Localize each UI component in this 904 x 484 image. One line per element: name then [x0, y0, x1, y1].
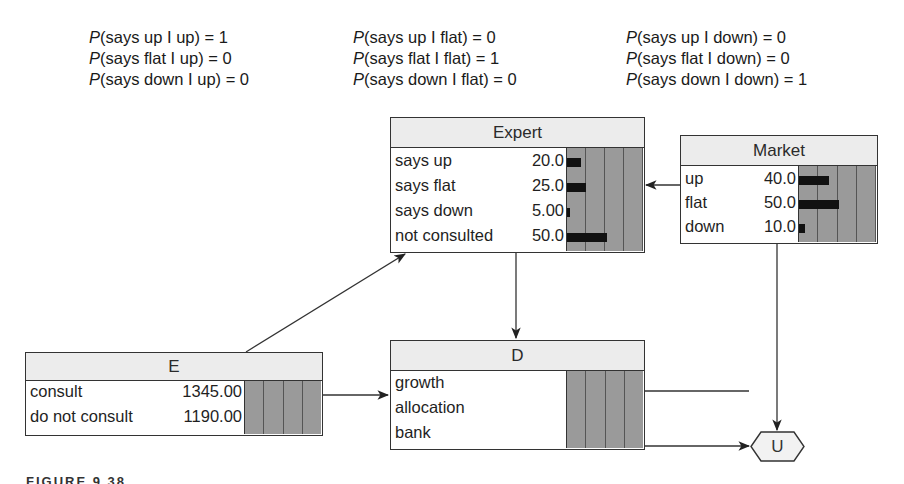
d-bars	[566, 371, 643, 448]
state-row[interactable]: do not consult1190.00	[26, 407, 244, 432]
expert-node[interactable]: Expert says up20.0 says flat25.0 says do…	[390, 117, 645, 253]
state-row[interactable]: allocation	[391, 398, 566, 423]
state-value: 25.0	[532, 176, 564, 201]
prob-expr: (says up I down) = 0	[637, 28, 786, 46]
prob-expr: (says flat I flat) = 1	[364, 49, 499, 67]
cpt-line: P(says up I down) = 0	[626, 27, 807, 48]
state-label: says down	[395, 201, 473, 226]
state-row: up40.0	[681, 169, 798, 193]
state-value: 1345.00	[182, 382, 242, 407]
prob-symbol: P	[89, 28, 100, 46]
d-node[interactable]: D growth allocation bank	[390, 340, 645, 450]
state-value: 5.00	[532, 201, 564, 226]
cpt-line: P(says flat I down) = 0	[626, 48, 807, 69]
e-node[interactable]: E consult1345.00 do not consult1190.00	[25, 352, 323, 436]
e-bars	[244, 381, 321, 434]
prob-symbol: P	[353, 28, 364, 46]
belief-bar	[567, 183, 586, 192]
market-states: up40.0 flat50.0 down10.0	[681, 166, 798, 242]
cpt-line: P(says flat I up) = 0	[89, 48, 249, 69]
state-label: do not consult	[30, 407, 133, 432]
belief-bar	[567, 233, 607, 242]
cpt-line: P(says up I flat) = 0	[353, 27, 517, 48]
state-row: down10.0	[681, 217, 798, 241]
prob-symbol: P	[353, 70, 364, 88]
state-value: 20.0	[532, 151, 564, 176]
prob-symbol: P	[626, 70, 637, 88]
state-row[interactable]: consult1345.00	[26, 382, 244, 407]
state-row: says flat25.0	[391, 176, 566, 201]
state-row[interactable]: bank	[391, 423, 566, 448]
state-label: says up	[395, 151, 452, 176]
cpt-given-down: P(says up I down) = 0 P(says flat I down…	[626, 27, 807, 90]
u-node[interactable]: U	[750, 431, 805, 462]
prob-expr: (says down I flat) = 0	[364, 70, 517, 88]
cpt-given-up: P(says up I up) = 1 P(says flat I up) = …	[89, 27, 249, 90]
prob-symbol: P	[353, 49, 364, 67]
belief-bar	[567, 208, 570, 217]
state-value: 50.0	[764, 193, 796, 217]
d-node-title: D	[391, 341, 644, 371]
state-label: bank	[395, 423, 431, 448]
state-label: down	[685, 217, 724, 241]
prob-expr: (says down I up) = 0	[100, 70, 249, 88]
state-label: growth	[395, 373, 445, 398]
state-row: says down5.00	[391, 201, 566, 226]
state-row: not consulted50.0	[391, 226, 566, 251]
state-row: flat50.0	[681, 193, 798, 217]
belief-bar	[799, 200, 839, 209]
market-node[interactable]: Market up40.0 flat50.0 down10.0	[680, 135, 878, 244]
prob-expr: (says flat I up) = 0	[100, 49, 232, 67]
state-value: 10.0	[764, 217, 796, 241]
u-node-title: U	[750, 431, 805, 462]
state-value: 1190.00	[184, 407, 242, 432]
belief-bar	[799, 176, 829, 185]
belief-bar	[799, 224, 805, 233]
state-label: up	[685, 169, 703, 193]
state-label: allocation	[395, 398, 465, 423]
belief-bar	[567, 158, 581, 167]
prob-symbol: P	[626, 28, 637, 46]
state-row[interactable]: growth	[391, 373, 566, 398]
state-label: consult	[30, 382, 82, 407]
state-label: flat	[685, 193, 707, 217]
figure-caption: FIGURE 9.38	[26, 474, 126, 484]
prob-expr: (says down I down) = 1	[637, 70, 807, 88]
state-label: says flat	[395, 176, 456, 201]
prob-expr: (says flat I down) = 0	[637, 49, 790, 67]
prob-symbol: P	[89, 49, 100, 67]
state-value: 40.0	[764, 169, 796, 193]
prob-symbol: P	[89, 70, 100, 88]
market-belief-bars	[798, 166, 876, 242]
cpt-line: P(says flat I flat) = 1	[353, 48, 517, 69]
cpt-line: P(says down I up) = 0	[89, 69, 249, 90]
expert-states: says up20.0 says flat25.0 says down5.00 …	[391, 148, 566, 251]
e-states: consult1345.00 do not consult1190.00	[26, 381, 244, 434]
prob-symbol: P	[626, 49, 637, 67]
state-value: 50.0	[532, 226, 564, 251]
e-node-title: E	[26, 353, 322, 381]
market-node-title: Market	[681, 136, 877, 166]
cpt-line: P(says down I down) = 1	[626, 69, 807, 90]
prob-expr: (says up I up) = 1	[100, 28, 228, 46]
expert-node-title: Expert	[391, 118, 644, 148]
prob-expr: (says up I flat) = 0	[364, 28, 496, 46]
expert-belief-bars	[566, 148, 643, 251]
state-label: not consulted	[395, 226, 493, 251]
d-states: growth allocation bank	[391, 371, 566, 448]
state-row: says up20.0	[391, 151, 566, 176]
arc-e-to-expert	[246, 254, 405, 352]
cpt-given-flat: P(says up I flat) = 0 P(says flat I flat…	[353, 27, 517, 90]
cpt-line: P(says up I up) = 1	[89, 27, 249, 48]
cpt-line: P(says down I flat) = 0	[353, 69, 517, 90]
